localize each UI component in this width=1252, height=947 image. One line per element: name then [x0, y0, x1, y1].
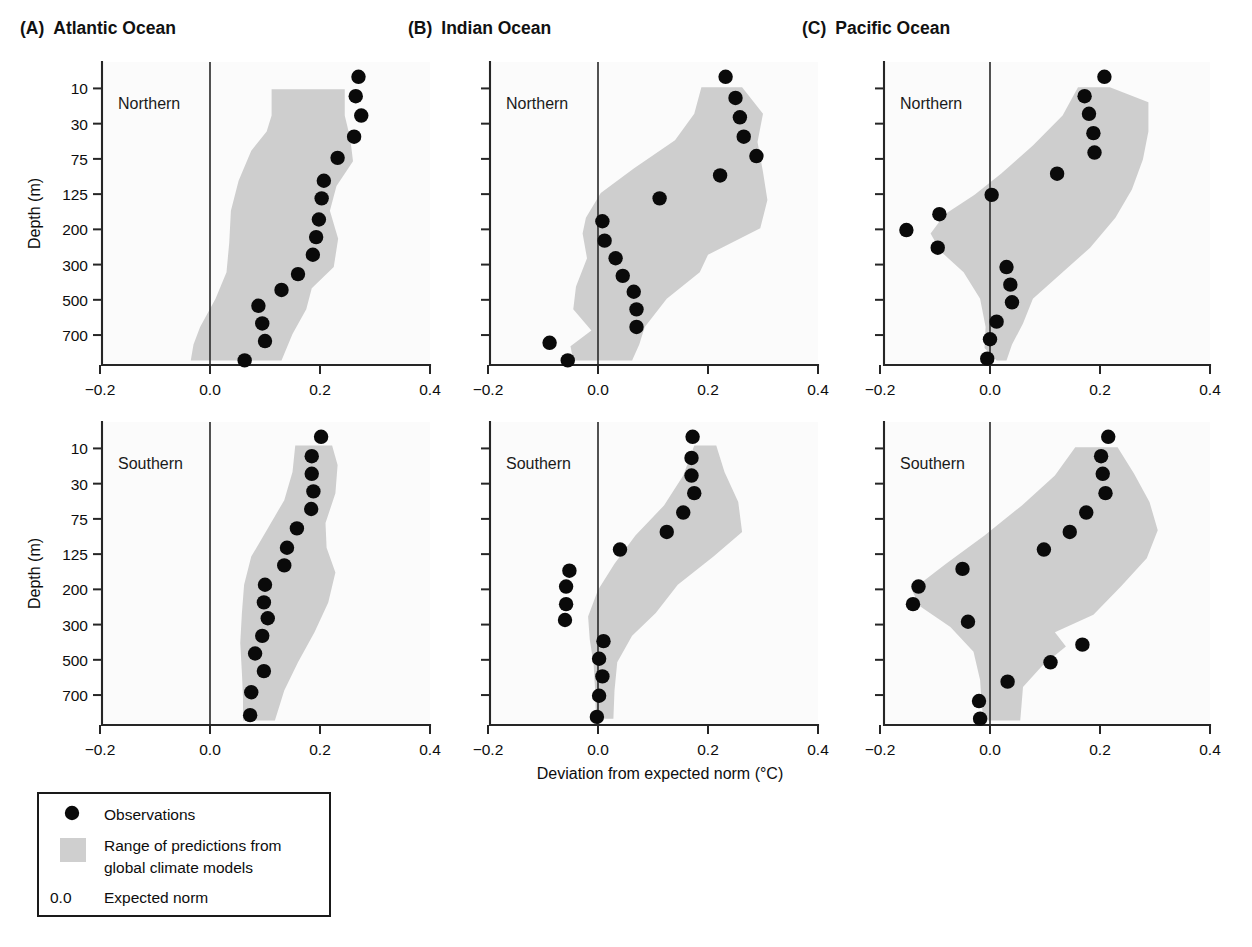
observation-point — [989, 314, 1003, 328]
x-axis-title: Deviation from expected norm (°C) — [537, 765, 783, 782]
panel-A: (A)Atlantic Ocean — [20, 18, 176, 38]
observation-point — [906, 597, 920, 611]
observation-point — [592, 689, 606, 703]
observation-point — [911, 579, 925, 593]
observation-point — [972, 694, 986, 708]
observation-point — [1003, 277, 1017, 291]
observation-point — [248, 646, 262, 660]
x-tick-label-1: 0.0 — [979, 741, 1001, 758]
observation-point — [899, 223, 913, 237]
observation-point — [305, 449, 319, 463]
y-tick-label-500: 500 — [62, 652, 88, 669]
observation-point — [251, 299, 265, 313]
panel-letter-B: (B) — [408, 18, 432, 38]
observation-point — [595, 669, 609, 683]
observation-point — [1077, 89, 1091, 103]
y-tick-label-75: 75 — [71, 511, 88, 528]
x-tick-label-2: 0.2 — [1089, 381, 1111, 398]
legend-expected-norm-value: 0.0 — [50, 889, 72, 906]
panel-name-A: Atlantic Ocean — [53, 18, 176, 38]
observation-point — [718, 70, 732, 84]
observation-point — [243, 708, 257, 722]
y-tick-label-300: 300 — [62, 257, 88, 274]
observation-point — [1098, 486, 1112, 500]
observation-point — [314, 430, 328, 444]
observation-point — [1082, 107, 1096, 121]
observation-point — [277, 558, 291, 572]
observation-point — [280, 541, 294, 555]
x-tick-label-0: −0.2 — [865, 381, 896, 398]
x-tick-label-1: 0.0 — [979, 381, 1001, 398]
y-tick-label-30: 30 — [71, 116, 89, 133]
observation-point — [1079, 505, 1093, 519]
observation-point — [1096, 467, 1110, 481]
y-tick-label-30: 30 — [71, 476, 89, 493]
observation-point — [660, 525, 674, 539]
subpanel-b-southern: −0.20.00.20.4Southern — [473, 422, 829, 758]
observation-point — [932, 207, 946, 221]
y-tick-label-10: 10 — [71, 440, 89, 457]
observation-point — [255, 316, 269, 330]
y-tick-label-700: 700 — [62, 687, 88, 704]
x-tick-label-2: 0.2 — [309, 741, 331, 758]
x-tick-label-0: −0.2 — [85, 741, 116, 758]
region-label-northern: Northern — [900, 95, 962, 112]
observation-point — [983, 332, 997, 346]
panel-C: (C)Pacific Ocean — [802, 18, 950, 38]
y-tick-label-10: 10 — [71, 80, 89, 97]
observation-point — [608, 251, 622, 265]
observation-point — [1086, 126, 1100, 140]
x-tick-label-0: −0.2 — [85, 381, 116, 398]
y-tick-label-700: 700 — [62, 327, 88, 344]
observation-point — [347, 129, 361, 143]
observation-point — [652, 191, 666, 205]
observation-point — [291, 267, 305, 281]
observation-point — [317, 174, 331, 188]
observation-point — [309, 230, 323, 244]
subpanel-c-southern: −0.20.00.20.4Southern — [865, 422, 1221, 758]
observation-point — [676, 505, 690, 519]
observation-point — [737, 129, 751, 143]
observation-point — [627, 285, 641, 299]
observation-point — [244, 685, 258, 699]
y-axis-title: Depth (m) — [26, 538, 43, 609]
region-label-northern: Northern — [118, 95, 180, 112]
legend-label-range-line2: global climate models — [104, 859, 253, 876]
x-tick-label-2: 0.2 — [697, 381, 719, 398]
region-label-southern: Southern — [900, 455, 965, 472]
region-label-southern: Southern — [118, 455, 183, 472]
observation-point — [257, 595, 271, 609]
observation-point — [255, 629, 269, 643]
panel-title-A: (A)Atlantic Ocean — [20, 18, 176, 38]
x-tick-label-1: 0.0 — [199, 381, 221, 398]
observation-point — [684, 451, 698, 465]
observation-point — [257, 664, 271, 678]
ocean-temperature-deviation-figure: (A)Atlantic Ocean103075125200300500700−0… — [0, 0, 1252, 947]
panel-letter-C: (C) — [802, 18, 826, 38]
panel-title-B: (B)Indian Ocean — [408, 18, 551, 38]
observation-point — [312, 212, 326, 226]
observation-point — [984, 188, 998, 202]
observation-point — [1043, 655, 1057, 669]
observation-point — [980, 351, 994, 365]
subpanel-a-southern: 103075125200300500700−0.20.00.20.4Southe… — [26, 422, 441, 758]
observation-point — [687, 486, 701, 500]
observation-point — [1037, 542, 1051, 556]
observation-point — [351, 70, 365, 84]
observation-point — [354, 108, 368, 122]
x-tick-label-3: 0.4 — [419, 381, 441, 398]
observation-point — [733, 110, 747, 124]
x-tick-label-1: 0.0 — [587, 381, 609, 398]
observation-point — [685, 430, 699, 444]
observation-point — [561, 353, 575, 367]
observation-point — [1097, 70, 1111, 84]
x-tick-label-0: −0.2 — [865, 741, 896, 758]
observation-point — [558, 613, 572, 627]
figure-root: (A)Atlantic Ocean103075125200300500700−0… — [0, 0, 1252, 947]
y-tick-label-125: 125 — [62, 546, 88, 563]
observation-point — [629, 302, 643, 316]
observation-point — [1050, 166, 1064, 180]
observation-point — [931, 240, 945, 254]
y-tick-label-125: 125 — [62, 186, 88, 203]
y-tick-label-200: 200 — [62, 221, 88, 238]
